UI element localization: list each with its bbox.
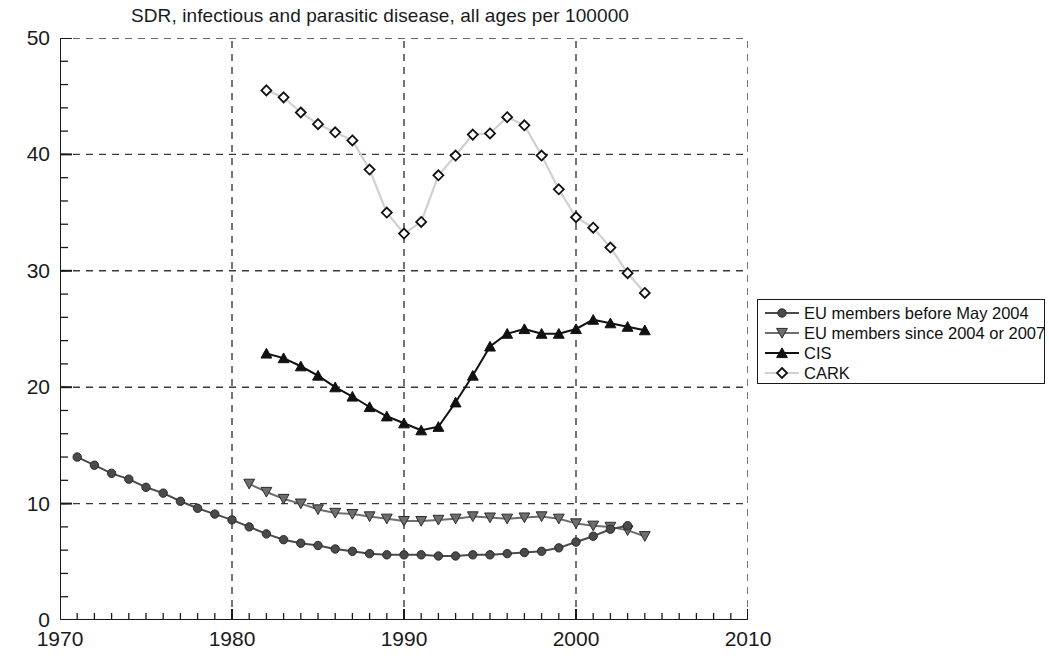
legend-item-label: CARK	[802, 365, 850, 382]
x-tick-label-2000: 2000	[531, 628, 621, 649]
x-tick-label-1980: 1980	[187, 628, 277, 649]
triangle-down-filled-icon	[762, 323, 802, 343]
legend-item-label: CIS	[802, 345, 832, 362]
x-tick-label-2010: 2010	[703, 628, 793, 649]
series-2	[261, 315, 650, 435]
legend-item-0[interactable]: EU members before May 2004	[762, 303, 1038, 323]
triangle-up-filled-icon	[762, 343, 802, 363]
chart-canvas	[60, 38, 748, 620]
y-tick-label-30: 30	[4, 260, 50, 281]
series-3	[261, 85, 649, 298]
chart-title: SDR, infectious and parasitic disease, a…	[0, 5, 760, 27]
chart-page: SDR, infectious and parasitic disease, a…	[0, 0, 1049, 666]
circle-filled-icon	[762, 303, 802, 323]
legend-item-1[interactable]: EU members since 2004 or 2007	[762, 323, 1038, 343]
y-tick-label-10: 10	[4, 493, 50, 514]
x-tick-label-1990: 1990	[359, 628, 449, 649]
y-tick-label-40: 40	[4, 143, 50, 164]
y-tick-label-20: 20	[4, 376, 50, 397]
legend-item-2[interactable]: CIS	[762, 343, 1038, 363]
legend-item-3[interactable]: CARK	[762, 363, 1038, 383]
legend-item-label: EU members before May 2004	[802, 305, 1029, 322]
series-1	[244, 479, 650, 541]
y-tick-label-50: 50	[4, 27, 50, 48]
chart-legend: EU members before May 2004EU members sin…	[757, 299, 1045, 384]
diamond-open-icon	[762, 363, 802, 383]
legend-item-label: EU members since 2004 or 2007	[802, 325, 1045, 342]
plot-area	[60, 38, 748, 620]
series-0	[73, 453, 632, 560]
x-tick-label-1970: 1970	[15, 628, 105, 649]
